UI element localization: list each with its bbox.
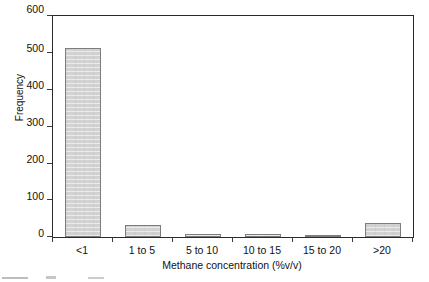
bar-series xyxy=(53,16,413,237)
y-tick-label: 600 xyxy=(14,4,44,15)
bar-slot xyxy=(113,16,173,237)
bar-chart-figure: Frequency 600 500 400 300 200 100 0 xyxy=(0,0,429,282)
x-tick-mark xyxy=(412,237,413,242)
bar-slot xyxy=(53,16,113,237)
y-tick-label: 200 xyxy=(14,154,44,165)
x-tick-label: 5 to 10 xyxy=(172,244,232,256)
y-tick-label: 400 xyxy=(14,80,44,91)
x-tick-label: 15 to 20 xyxy=(292,244,352,256)
y-tick-label: 100 xyxy=(14,191,44,202)
bar[interactable] xyxy=(185,234,221,237)
bar-slot xyxy=(293,16,353,237)
x-tick-mark xyxy=(352,237,353,242)
x-tick-mark xyxy=(292,237,293,242)
scan-artifact xyxy=(88,277,104,279)
bar[interactable] xyxy=(365,223,401,237)
x-axis-tick-labels: <1 1 to 5 5 to 10 10 to 15 15 to 20 >20 xyxy=(52,244,412,256)
x-tick-label: <1 xyxy=(52,244,112,256)
bar[interactable] xyxy=(125,225,161,237)
bar[interactable] xyxy=(245,234,281,237)
y-tick-label: 500 xyxy=(14,43,44,54)
x-tick-mark xyxy=(52,237,53,242)
bar[interactable] xyxy=(65,48,101,237)
y-tick-label: 300 xyxy=(14,117,44,128)
bar-slot xyxy=(353,16,413,237)
x-tick-label: >20 xyxy=(352,244,412,256)
scan-artifact xyxy=(46,276,56,279)
bar-slot xyxy=(233,16,293,237)
x-tick-mark xyxy=(112,237,113,242)
plot-area xyxy=(52,15,414,238)
x-axis-title: Methane concentration (%v/v) xyxy=(52,259,412,271)
x-tick-mark xyxy=(232,237,233,242)
x-tick-label: 1 to 5 xyxy=(112,244,172,256)
y-tick-label: 0 xyxy=(14,228,44,239)
bar[interactable] xyxy=(305,235,341,237)
x-tick-label: 10 to 15 xyxy=(232,244,292,256)
y-axis-tick-labels: 600 500 400 300 200 100 0 xyxy=(14,9,44,243)
scan-artifact xyxy=(2,277,28,279)
x-tick-mark xyxy=(172,237,173,242)
bar-slot xyxy=(173,16,233,237)
